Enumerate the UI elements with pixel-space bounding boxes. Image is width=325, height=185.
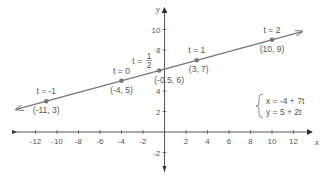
point-coordinate-label: (-4, 5) [110,85,133,95]
point-coordinate-label: (-11, 3) [33,105,60,115]
data-point [44,99,49,104]
x-axis-left-arrow-icon [12,130,17,134]
brace-icon [256,94,263,118]
point-coordinate-label: (3, 7) [189,64,209,74]
x-tick-label: -6 [96,137,104,146]
x-tick-label: -8 [75,137,83,146]
x-tick-label: 4 [205,137,210,146]
parametric-line-chart: xy -12-10-8-6-4-224681012-224810 (-11, 3… [0,0,325,185]
t-label: t = 1 [188,45,205,55]
y-tick-label: 8 [156,46,161,55]
x-tick-label: -4 [118,137,126,146]
equation-y: y = 5 + 2t [266,107,302,117]
t-label: t =12 [132,51,152,70]
x-tick-label: 2 [184,137,189,146]
y-axis-label: y [155,4,160,14]
y-tick-label: 4 [156,87,161,96]
y-tick-label: 10 [152,26,161,35]
svg-text:t =: t = [132,56,142,66]
x-tick-label: -2 [139,137,147,146]
data-point [119,78,124,83]
equation-box: x = -4 + 7ty = 5 + 2t [256,94,305,118]
x-tick-label: 10 [268,137,277,146]
equation-x: x = -4 + 7t [266,96,305,106]
y-axis-down-arrow-icon [163,166,167,172]
x-axis-label: x [314,137,319,147]
data-point [157,68,162,73]
x-tick-label: 8 [248,137,253,146]
data-points: (-11, 3)t = -1(-4, 5)t = 0(-0.5, 6)t =12… [33,25,285,116]
x-tick-label: 12 [289,137,298,146]
x-tick-label: 6 [227,137,232,146]
point-coordinate-label: (-0.5, 6) [154,75,184,85]
t-label: t = -1 [36,86,56,96]
x-tick-label: -12 [30,137,42,146]
data-point [194,58,199,63]
t-label: t = 0 [113,66,130,76]
y-tick-label: 2 [156,108,161,117]
data-point [270,37,275,42]
point-coordinate-label: (10, 9) [260,44,285,54]
svg-text:2: 2 [147,60,152,70]
x-tick-label: -10 [51,137,63,146]
y-tick-label: -2 [153,149,161,158]
t-label: t = 2 [264,25,281,35]
